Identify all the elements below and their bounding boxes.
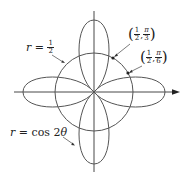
paren-close: ) (162, 48, 168, 66)
rose-eq-lhs: r (10, 126, 15, 139)
leader-pi6-arrowhead-icon (129, 70, 133, 73)
graph-canvas (0, 0, 193, 180)
rose-eq-sign: = (19, 126, 28, 139)
rose-eq-rhs: cos 2 (31, 126, 60, 139)
point2-theta: π6 (155, 50, 162, 65)
polar-graph-diagram: r = 12 r = cos 2θ (12,π3) (12,π6) (0, 0, 193, 180)
circle-eq-fraction: 12 (47, 40, 53, 55)
circle-eq-sign: = (35, 41, 44, 54)
leader-circle (52, 55, 63, 62)
leader-circle-arrowhead-icon (61, 60, 65, 63)
leader-pi3 (115, 44, 130, 56)
axis-arrow-icon (172, 89, 180, 95)
point1-label: (12,π3) (128, 27, 156, 42)
circle-eq-lhs: r (26, 41, 31, 54)
point-pi-over-6 (126, 71, 129, 74)
point2-label: (12,π6) (140, 50, 168, 65)
paren-close: ) (150, 25, 156, 43)
circle-equation-label: r = 12 (26, 40, 54, 55)
rose-equation-label: r = cos 2θ (10, 127, 67, 138)
point1-theta: π3 (143, 27, 150, 42)
frac-den: 6 (155, 58, 162, 65)
frac-den: 2 (47, 48, 53, 55)
rose-eq-theta: θ (60, 126, 67, 139)
frac-den: 3 (143, 35, 150, 42)
